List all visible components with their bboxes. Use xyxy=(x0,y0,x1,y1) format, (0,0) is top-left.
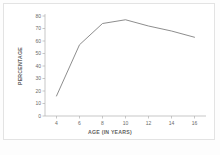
y-tick-label: 20 xyxy=(35,88,41,94)
x-axis-title: AGE (IN YEARS) xyxy=(0,129,220,135)
x-tick-label: 12 xyxy=(146,120,152,126)
y-axis-title-wrapper: PERCENTAGE xyxy=(14,18,26,113)
x-tick-label: 4 xyxy=(55,120,58,126)
y-tick-label: 30 xyxy=(35,75,41,81)
data-series-line xyxy=(57,20,195,96)
x-tick-label: 6 xyxy=(78,120,81,126)
y-tick-label: 70 xyxy=(35,25,41,31)
y-tick-label: 40 xyxy=(35,63,41,69)
y-axis-title: PERCENTAGE xyxy=(17,46,23,84)
x-tick-label: 10 xyxy=(123,120,129,126)
y-tick-label: 60 xyxy=(35,38,41,44)
x-tick-label: 8 xyxy=(101,120,104,126)
x-axis: 46810121416 xyxy=(45,116,206,126)
y-tick-label: 50 xyxy=(35,50,41,56)
y-tick-label: 10 xyxy=(35,100,41,106)
x-tick-label: 16 xyxy=(192,120,198,126)
y-tick-label: 80 xyxy=(35,13,41,19)
x-tick-label: 14 xyxy=(169,120,175,126)
y-tick-label: 0 xyxy=(38,113,41,119)
chart-figure: 01020304050607080 46810121416 PERCENTAGE… xyxy=(0,0,220,155)
y-axis: 01020304050607080 xyxy=(35,13,45,119)
